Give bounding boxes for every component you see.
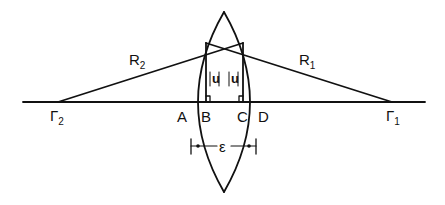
r2-subscript: 2 <box>140 60 146 71</box>
gamma1-subscript: 1 <box>394 116 400 127</box>
epsilon-dot-left <box>196 144 200 148</box>
epsilon-dot-right <box>247 144 251 148</box>
point-b-label: B <box>201 109 211 124</box>
epsilon-label: ε <box>219 139 226 154</box>
u-right-label: u <box>231 72 239 85</box>
gamma2-subscript: 2 <box>58 116 64 127</box>
lens-diagram-svg <box>0 0 445 205</box>
r1-subscript: 1 <box>310 60 316 71</box>
r1-label: R1 <box>299 52 315 71</box>
point-a-label: A <box>177 109 187 124</box>
point-d-label: D <box>258 109 269 124</box>
diagram-canvas: Γ2 Γ1 R2 R1 A B C D u u ε <box>0 0 445 205</box>
gamma2-label: Γ2 <box>50 108 64 127</box>
point-c-label: C <box>237 109 248 124</box>
r1-symbol: R <box>299 51 310 68</box>
gamma1-label: Γ1 <box>386 108 400 127</box>
u-left-label: u <box>212 72 220 85</box>
r2-symbol: R <box>129 51 140 68</box>
r2-label: R2 <box>129 52 145 71</box>
